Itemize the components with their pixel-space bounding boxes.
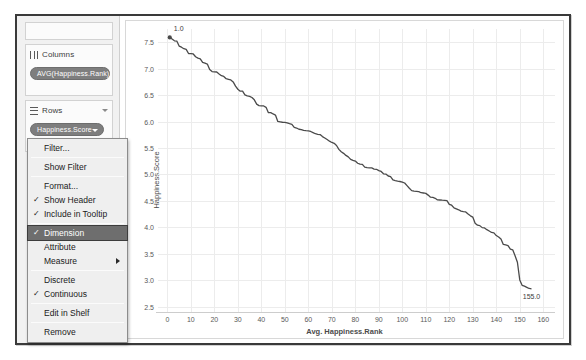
y-axis-tick-label: 4.5 (144, 197, 154, 204)
x-axis-line (156, 312, 555, 313)
check-icon: ✓ (33, 287, 40, 301)
menu-item-label: Remove (44, 327, 76, 337)
check-icon: ✓ (33, 226, 40, 240)
columns-icon (30, 51, 38, 59)
menu-item-measure[interactable]: Measure (28, 254, 127, 268)
menu-item-label: Dimension (44, 228, 84, 238)
pill-chevron-down-icon[interactable] (92, 129, 98, 132)
columns-shelf[interactable]: Columns AVG(Happiness.Rank) (25, 44, 113, 96)
menu-item-dimension[interactable]: ✓Dimension (28, 226, 127, 240)
check-icon: ✓ (33, 193, 40, 207)
y-axis-tick-label: 5.5 (144, 145, 154, 152)
pill-avg-happiness-rank[interactable]: AVG(Happiness.Rank) (30, 67, 110, 80)
columns-shelf-header: Columns (26, 47, 112, 62)
chevron-right-icon (116, 258, 120, 264)
plot-area: 2.53.03.54.04.55.05.56.06.57.07.50102030… (158, 29, 555, 312)
x-axis-tick-label: 10 (187, 316, 195, 323)
pill-columns-label: AVG(Happiness.Rank) (37, 70, 109, 77)
x-axis-tick-label: 120 (443, 316, 455, 323)
y-axis-tick-label: 7.0 (144, 65, 154, 72)
menu-item-format[interactable]: Format... (28, 179, 127, 193)
menu-item-label: Measure (44, 256, 77, 266)
y-axis-tick-label: 4.0 (144, 224, 154, 231)
x-axis-tick-label: 140 (490, 316, 502, 323)
menu-separator (31, 176, 124, 177)
menu-separator (31, 223, 124, 224)
x-axis-tick-label: 20 (210, 316, 218, 323)
rows-shelf-label: Rows (42, 106, 62, 115)
menu-separator (31, 157, 124, 158)
columns-shelf-label: Columns (42, 50, 74, 59)
y-axis-tick-label: 6.0 (144, 118, 154, 125)
menu-separator (31, 270, 124, 271)
pill-happiness-score[interactable]: Happiness.Score (30, 123, 104, 136)
check-icon: ✓ (33, 207, 40, 221)
y-axis-tick-label: 5.0 (144, 171, 154, 178)
menu-separator (31, 322, 124, 323)
x-axis-tick-label: 160 (537, 316, 549, 323)
pill-rows-label: Happiness.Score (37, 126, 92, 133)
menu-item-label: Edit in Shelf (44, 308, 89, 318)
x-axis-tick-label: 110 (420, 316, 431, 323)
menu-separator (31, 303, 124, 304)
data-point-label: 1.0 (174, 25, 184, 32)
x-axis-tick-label: 100 (396, 316, 408, 323)
data-point-marker (168, 35, 172, 39)
x-axis-tick-label: 130 (467, 316, 479, 323)
data-point-label: 155.0 (523, 293, 541, 300)
menu-item-label: Discrete (44, 275, 75, 285)
y-axis-tick-label: 3.0 (144, 277, 154, 284)
x-axis-tick-label: 60 (304, 316, 312, 323)
shelf-box-empty[interactable] (25, 22, 113, 40)
x-axis-tick-label: 30 (234, 316, 242, 323)
x-axis-tick-label: 70 (328, 316, 336, 323)
y-axis-tick-label: 6.5 (144, 92, 154, 99)
y-axis-tick-label: 2.5 (144, 303, 154, 310)
y-axis-tick-label: 3.5 (144, 250, 154, 257)
menu-item-label: Continuous (44, 289, 87, 299)
x-axis-tick-label: 0 (165, 316, 169, 323)
chevron-down-icon[interactable] (102, 109, 108, 112)
series-line (170, 38, 532, 289)
tableau-worksheet-window: Columns AVG(Happiness.Rank) Rows Happine… (15, 14, 571, 345)
screenshot-root: Columns AVG(Happiness.Rank) Rows Happine… (0, 0, 586, 360)
x-axis-tick-label: 50 (281, 316, 289, 323)
menu-item-label: Show Header (44, 195, 96, 205)
plot-card: Happiness.Score Avg. Happiness.Rank 2.53… (125, 20, 564, 339)
x-axis-title: Avg. Happiness.Rank (126, 327, 563, 336)
chart-panel: Happiness.Score Avg. Happiness.Rank 2.53… (121, 16, 569, 343)
menu-item-include-in-tooltip[interactable]: ✓Include in Tooltip (28, 207, 127, 221)
menu-item-continuous[interactable]: ✓Continuous (28, 287, 127, 301)
rows-shelf-header: Rows (26, 103, 112, 118)
x-axis-tick-label: 80 (351, 316, 359, 323)
menu-item-filter[interactable]: Filter... (28, 141, 127, 155)
menu-item-attribute[interactable]: Attribute (28, 240, 127, 254)
menu-item-label: Show Filter (44, 162, 87, 172)
menu-item-remove[interactable]: Remove (28, 325, 127, 339)
menu-item-show-filter[interactable]: Show Filter (28, 160, 127, 174)
menu-item-label: Format... (44, 181, 78, 191)
rows-icon (30, 107, 38, 115)
menu-item-label: Attribute (44, 242, 76, 252)
menu-item-label: Filter... (44, 143, 70, 153)
menu-item-discrete[interactable]: Discrete (28, 273, 127, 287)
x-axis-tick-label: 40 (257, 316, 265, 323)
menu-item-label: Include in Tooltip (44, 209, 107, 219)
line-series-happiness-score (158, 29, 555, 312)
x-axis-tick-label: 90 (375, 316, 383, 323)
menu-item-edit-in-shelf[interactable]: Edit in Shelf (28, 306, 127, 320)
field-context-menu[interactable]: Filter...Show FilterFormat...✓Show Heade… (27, 138, 128, 343)
menu-item-show-header[interactable]: ✓Show Header (28, 193, 127, 207)
y-axis-tick-label: 7.5 (144, 39, 154, 46)
x-axis-tick-label: 150 (514, 316, 526, 323)
